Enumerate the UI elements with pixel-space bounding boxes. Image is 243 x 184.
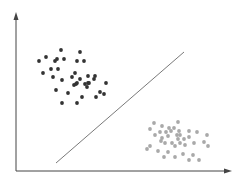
data-point	[85, 85, 89, 89]
data-point	[206, 144, 210, 148]
data-point	[78, 77, 82, 81]
data-point	[191, 153, 195, 157]
data-point	[173, 155, 177, 159]
data-point	[205, 133, 209, 137]
data-point	[166, 150, 170, 154]
data-point	[166, 134, 170, 138]
data-point	[78, 50, 82, 54]
data-point	[187, 158, 191, 162]
data-point	[49, 67, 53, 71]
data-point	[37, 59, 41, 63]
y-axis-arrow-icon	[14, 12, 19, 20]
data-point	[75, 59, 79, 63]
data-point	[163, 141, 167, 145]
data-point	[104, 81, 108, 85]
data-point	[145, 147, 149, 151]
x-axis-arrow-icon	[224, 169, 232, 174]
data-point	[152, 121, 156, 125]
data-point	[148, 144, 152, 148]
data-point	[172, 126, 176, 130]
data-point	[176, 120, 180, 124]
data-point	[60, 101, 64, 105]
data-point	[75, 101, 79, 105]
x-axis	[16, 169, 232, 174]
data-point	[92, 77, 96, 81]
data-point	[59, 48, 63, 52]
y-axis	[14, 12, 19, 171]
data-point	[156, 149, 160, 153]
data-point	[55, 57, 59, 61]
data-point	[54, 88, 58, 92]
data-point	[102, 92, 106, 96]
data-point	[197, 158, 201, 162]
data-point	[87, 81, 91, 85]
data-point	[170, 141, 174, 145]
data-point	[62, 57, 66, 61]
data-point	[56, 67, 60, 71]
data-point	[60, 78, 64, 82]
data-point	[51, 75, 55, 79]
data-point	[158, 130, 162, 134]
data-point	[73, 71, 77, 75]
data-point	[41, 71, 45, 75]
data-point	[70, 75, 74, 79]
data-point	[80, 95, 84, 99]
data-point	[159, 139, 163, 143]
data-point	[183, 143, 187, 147]
data-point	[94, 95, 98, 99]
data-point	[187, 135, 191, 139]
data-point	[178, 141, 182, 145]
data-point	[98, 90, 102, 94]
data-point	[153, 133, 157, 137]
data-point	[75, 81, 79, 85]
data-point	[192, 141, 196, 145]
data-point	[173, 144, 177, 148]
class-a-points	[37, 48, 108, 105]
class-b-points	[145, 120, 210, 162]
data-point	[202, 140, 206, 144]
data-point	[66, 91, 70, 95]
data-point	[160, 124, 164, 128]
data-point	[162, 155, 166, 159]
decision-boundary-line	[56, 52, 184, 163]
data-point	[195, 130, 199, 134]
data-point	[86, 74, 90, 78]
data-point	[176, 137, 180, 141]
data-point	[82, 59, 86, 63]
data-point	[177, 129, 181, 133]
data-point	[187, 129, 191, 133]
data-point	[148, 127, 152, 131]
data-point	[181, 152, 185, 156]
data-point	[182, 137, 186, 141]
data-point	[164, 130, 168, 134]
data-point	[169, 129, 173, 133]
scatter-chart	[0, 0, 243, 184]
data-point	[44, 55, 48, 59]
data-point	[178, 133, 182, 137]
